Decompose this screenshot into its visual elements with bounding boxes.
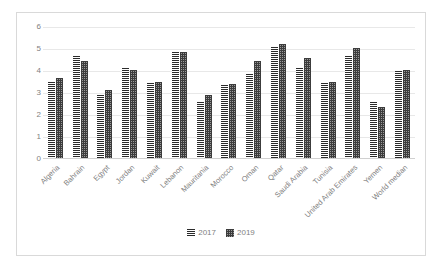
bar-group (291, 27, 316, 158)
bar-2019[interactable] (229, 84, 236, 158)
x-axis-label-cell: Kuwait (142, 161, 167, 219)
x-axis-label: Jordan (114, 163, 137, 186)
x-axis-labels: AlgeriaBahrainEgyptJordanKuwaitLebanonMa… (43, 161, 415, 219)
x-axis-label: Kuwait (139, 163, 161, 185)
x-axis-label-cell: Morocco (217, 161, 242, 219)
x-axis-label-cell: Jordan (117, 161, 142, 219)
bar-2019[interactable] (254, 61, 261, 158)
plot-wrapper: 0123456 AlgeriaBahrainEgyptJordanKuwaitL… (17, 13, 425, 255)
bar-2017[interactable] (370, 102, 377, 158)
bar-2017[interactable] (345, 56, 352, 158)
bar-group (241, 27, 266, 158)
bar-2019[interactable] (353, 48, 360, 158)
bar-group (117, 27, 142, 158)
bar-2017[interactable] (48, 82, 55, 158)
bar-group (142, 27, 167, 158)
x-axis-label: Qatar (265, 163, 285, 183)
y-axis-tick-1: 1 (23, 133, 41, 141)
bar-2019[interactable] (304, 58, 311, 158)
legend-label-2017: 2017 (198, 229, 216, 237)
bar-2017[interactable] (122, 68, 129, 158)
bar-2017[interactable] (271, 47, 278, 158)
plot-area (43, 27, 415, 159)
bar-2019[interactable] (81, 61, 88, 158)
bar-2019[interactable] (403, 70, 410, 158)
bar-2017[interactable] (147, 83, 154, 158)
legend-swatch-2017 (187, 229, 195, 237)
x-axis-label-cell: Bahrain (68, 161, 93, 219)
x-axis-label-cell: World median (390, 161, 415, 219)
bar-group (365, 27, 390, 158)
y-axis-tick-2: 2 (23, 111, 41, 119)
x-axis-label-cell: Mauritania (192, 161, 217, 219)
bar-2019[interactable] (180, 52, 187, 158)
bar-2019[interactable] (130, 70, 137, 158)
bar-2017[interactable] (221, 85, 228, 158)
legend-swatch-2019 (226, 229, 234, 237)
bar-2019[interactable] (155, 82, 162, 158)
bar-group (68, 27, 93, 158)
legend-label-2019: 2019 (237, 229, 255, 237)
bar-2019[interactable] (378, 107, 385, 158)
bar-2019[interactable] (205, 95, 212, 158)
bar-2017[interactable] (296, 68, 303, 158)
bar-2019[interactable] (279, 44, 286, 158)
x-axis-label: Algeria (39, 163, 62, 186)
bar-group (192, 27, 217, 158)
y-axis: 0123456 (23, 27, 41, 159)
x-axis-label: Yemen (361, 163, 384, 186)
legend-item-2017[interactable]: 2017 (187, 229, 216, 237)
y-axis-tick-4: 4 (23, 67, 41, 75)
bar-2019[interactable] (56, 78, 63, 158)
x-axis-label-cell: Oman (241, 161, 266, 219)
bar-2017[interactable] (73, 56, 80, 158)
bar-groups (43, 27, 415, 158)
axis-baseline (43, 158, 415, 159)
x-axis-label-cell: Egypt (93, 161, 118, 219)
chart-container: 0123456 AlgeriaBahrainEgyptJordanKuwaitL… (16, 12, 426, 256)
bar-2017[interactable] (395, 71, 402, 158)
bar-group (43, 27, 68, 158)
bar-group (266, 27, 291, 158)
bar-2017[interactable] (172, 52, 179, 158)
bar-group (167, 27, 192, 158)
bar-2017[interactable] (97, 95, 104, 158)
bar-2017[interactable] (321, 83, 328, 158)
bar-group (316, 27, 341, 158)
bar-group (341, 27, 366, 158)
x-axis-label: Egypt (91, 163, 111, 183)
y-axis-tick-6: 6 (23, 23, 41, 31)
y-axis-tick-5: 5 (23, 45, 41, 53)
x-axis-label-cell: United Arab Emirates (341, 161, 366, 219)
legend-item-2019[interactable]: 2019 (226, 229, 255, 237)
y-axis-tick-3: 3 (23, 89, 41, 97)
y-axis-tick-0: 0 (23, 155, 41, 163)
bar-group (93, 27, 118, 158)
chart-legend: 2017 2019 (17, 229, 425, 237)
bar-group (217, 27, 242, 158)
x-axis-label: Oman (239, 163, 260, 184)
bar-2019[interactable] (105, 90, 112, 158)
bar-2017[interactable] (197, 102, 204, 158)
x-axis-label-cell: Algeria (43, 161, 68, 219)
bar-group (390, 27, 415, 158)
bar-2019[interactable] (329, 82, 336, 158)
bar-2017[interactable] (246, 74, 253, 158)
